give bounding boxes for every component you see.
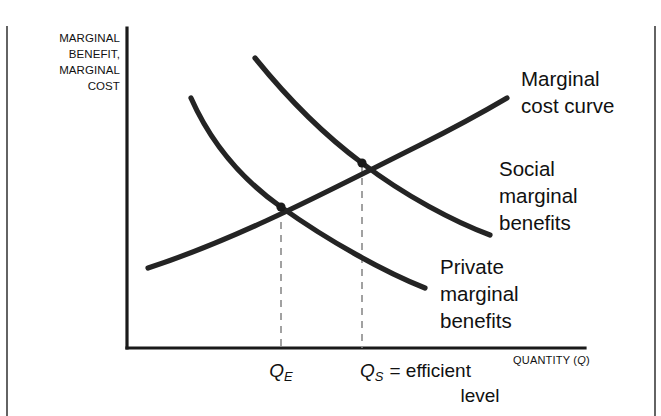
svg-text:QUANTITY (Q): QUANTITY (Q) [513,354,590,366]
tick-label-qe: QE [269,360,293,384]
y-axis-title: MARGINAL BENEFIT, MARGINAL COST [59,32,120,92]
social-marginal-benefits-label: Social marginal benefits [499,157,578,234]
tick-qs-note-line2: level [460,385,499,406]
y-axis-title-line-3: MARGINAL [59,64,120,76]
intersection-dot-qe [276,202,285,211]
y-axis-title-line-4: COST [88,80,120,92]
private-benefits-label-line-3: benefits [440,309,512,332]
private-marginal-benefits-curve [191,98,425,288]
tick-qs-sub: S [375,369,384,384]
x-axis-title: QUANTITY (Q) [513,354,590,366]
curves-group [148,58,507,288]
private-benefits-label-line-2: marginal [440,282,519,305]
marginal-cost-label: Marginal cost curve [521,67,614,117]
intersection-markers [276,158,366,211]
x-axis-title-var: Q [577,354,586,366]
social-benefits-label-line-1: Social [499,157,555,180]
marginal-cost-label-line-1: Marginal [521,67,600,90]
private-benefits-label-line-1: Private [440,255,504,278]
tick-label-qs: QS= efficient level [360,360,500,406]
intersection-dot-qs [357,158,366,167]
x-axis-title-end: ) [586,354,590,366]
social-benefits-label-line-3: benefits [499,211,571,234]
tick-qe-sub: E [284,369,293,384]
x-axis-title-text: QUANTITY ( [513,354,577,366]
y-axis-title-line-1: MARGINAL [59,32,120,44]
economics-diagram-figure: MARGINAL BENEFIT, MARGINAL COST QUANTITY… [0,0,661,416]
tick-qe-var: Q [269,360,284,381]
tick-qs-note: = efficient [389,360,471,381]
y-axis-title-line-2: BENEFIT, [69,48,120,60]
tick-qs-var: Q [360,360,375,381]
social-benefits-label-line-2: marginal [499,184,578,207]
svg-text:QS= efficient: QS= efficient [360,360,472,384]
marginal-cost-label-line-2: cost curve [521,94,614,117]
svg-text:QE: QE [269,360,293,384]
private-marginal-benefits-label: Private marginal benefits [440,255,519,332]
